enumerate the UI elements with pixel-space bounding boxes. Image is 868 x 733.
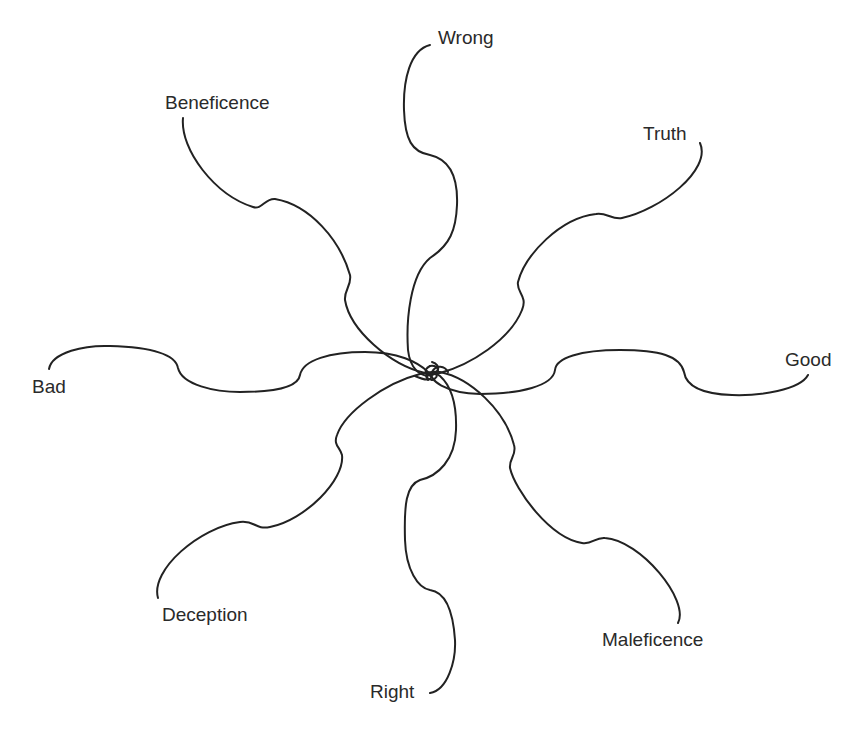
label-maleficence: Maleficence xyxy=(602,630,703,649)
arm-right xyxy=(405,373,456,693)
label-right: Right xyxy=(370,682,414,701)
arm-bad xyxy=(49,346,431,392)
radial-concept-diagram xyxy=(0,0,868,733)
arm-deception xyxy=(157,373,437,598)
label-beneficence: Beneficence xyxy=(165,93,270,112)
label-deception: Deception xyxy=(162,605,248,624)
label-truth: Truth xyxy=(643,124,687,143)
label-bad: Bad xyxy=(32,377,66,396)
arm-beneficence xyxy=(183,118,438,374)
label-good: Good xyxy=(785,350,831,369)
arm-good xyxy=(431,350,808,395)
arm-maleficence xyxy=(426,372,680,623)
arm-wrong xyxy=(404,45,457,376)
label-wrong: Wrong xyxy=(438,28,494,47)
arm-truth xyxy=(426,143,702,374)
